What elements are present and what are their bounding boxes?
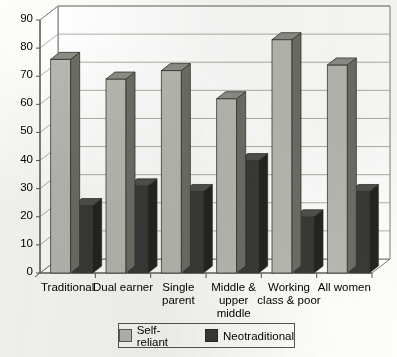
y-axis-tick-label: 50 [0, 124, 33, 136]
y-axis-tick-label: 40 [0, 153, 33, 165]
y-axis-tick-label: 10 [0, 237, 33, 249]
y-axis-tick-label: 90 [0, 12, 33, 24]
x-axis-category-label: All women [311, 281, 378, 294]
y-axis-tick-label: 80 [0, 40, 33, 52]
y-axis-tick-label: 60 [0, 96, 33, 108]
category-label-line: All women [311, 281, 378, 294]
bar-chart: 0102030405060708090 TraditionalDual earn… [0, 0, 397, 357]
y-axis-tick-label: 20 [0, 209, 33, 221]
category-label-line: middle [200, 307, 267, 320]
legend-swatch-icon [119, 329, 132, 342]
legend-item-neotraditional: Neotraditional [205, 329, 294, 342]
legend-label: Neotraditional [223, 330, 294, 342]
y-axis-tick-label: 70 [0, 68, 33, 80]
legend-label: Self-reliant [137, 324, 190, 348]
legend-item-self-reliant: Self-reliant [119, 324, 190, 348]
chart-legend: Self-reliant Neotraditional [118, 323, 295, 348]
y-axis-tick-label: 30 [0, 181, 33, 193]
category-label-line: class & poor [255, 294, 322, 307]
legend-swatch-icon [205, 329, 218, 342]
y-axis-tick-label: 0 [0, 265, 33, 277]
